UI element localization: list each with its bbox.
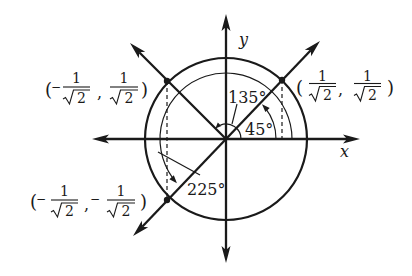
x-denominator: 2 xyxy=(323,87,332,103)
y-denominator: 2 xyxy=(368,87,377,103)
x-sign: − xyxy=(51,80,61,94)
x-numerator: 1 xyxy=(60,183,69,199)
close-paren: ) xyxy=(141,79,148,100)
y-denominator: 2 xyxy=(125,90,134,106)
x-denominator: 2 xyxy=(65,203,74,219)
angle-label-135: 135° xyxy=(228,88,267,107)
point-q3 xyxy=(164,197,170,203)
y-denominator: 2 xyxy=(122,203,131,219)
angle-label-225: 225° xyxy=(187,180,226,199)
x-sign: − xyxy=(36,192,46,206)
x-denominator: 2 xyxy=(77,90,86,106)
leader-135 xyxy=(232,104,237,124)
arc-arrow-icon xyxy=(215,122,221,128)
coord-label-q2: ( − 1 2 , 1 2 ) xyxy=(45,70,148,106)
open-paren: ( xyxy=(296,77,303,98)
close-paren: ) xyxy=(140,191,147,212)
unit-circle-diagram: y x 45° 135° 225° ( 1 2 , 1 2 ) ( − 1 2 … xyxy=(0,0,412,276)
coord-label-q1: ( 1 2 , 1 2 ) xyxy=(296,68,394,103)
y-sign: − xyxy=(90,192,100,206)
ray-line xyxy=(139,52,226,139)
close-paren: ) xyxy=(387,77,394,98)
x-numerator: 1 xyxy=(72,70,81,86)
point-q2 xyxy=(164,78,170,84)
point-q1 xyxy=(279,77,285,83)
y-axis-label: y xyxy=(238,30,249,49)
x-axis-label: x xyxy=(340,142,349,161)
separator: , xyxy=(84,195,89,214)
separator: , xyxy=(97,83,102,102)
y-numerator: 1 xyxy=(117,183,126,199)
y-numerator: 1 xyxy=(120,70,129,86)
angle-label-45: 45° xyxy=(245,120,273,139)
y-numerator: 1 xyxy=(363,68,372,84)
arc-arrow-icon xyxy=(169,175,177,183)
x-numerator: 1 xyxy=(318,68,327,84)
separator: , xyxy=(338,80,343,99)
coord-label-q3: ( − 1 2 , − 1 2 ) xyxy=(30,183,147,219)
